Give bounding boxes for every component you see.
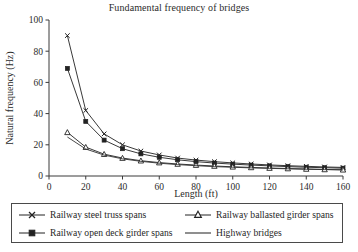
legend-label: Railway ballasted girder spans bbox=[216, 210, 334, 220]
chart-page: Fundamental frequency of bridges 0204060… bbox=[0, 0, 358, 252]
x-tick-label: 20 bbox=[81, 182, 91, 192]
x-tick-label: 140 bbox=[299, 182, 314, 192]
x-tick-label: 40 bbox=[118, 182, 128, 192]
y-tick-label: 0 bbox=[38, 171, 43, 181]
legend-entry-railway-ballasted-girder-spans[interactable]: Railway ballasted girder spans bbox=[184, 206, 334, 224]
series-group bbox=[65, 33, 346, 172]
axes-group bbox=[49, 20, 343, 176]
legend-row-2-right: Highway bridges bbox=[184, 224, 282, 242]
y-tick-label: 40 bbox=[34, 109, 44, 119]
legend-label: Railway steel truss spans bbox=[50, 210, 146, 220]
series-line bbox=[67, 132, 343, 169]
legend-entry-railway-steel-truss-spans[interactable]: Railway steel truss spans bbox=[18, 206, 146, 224]
square-marker bbox=[84, 119, 88, 123]
square-marker bbox=[102, 138, 106, 142]
y-axis-title: Natural frequency (Hz) bbox=[4, 51, 16, 144]
square-marker bbox=[157, 155, 161, 159]
legend-entry-highway-bridges[interactable]: Highway bridges bbox=[184, 224, 282, 242]
x-tick-label: 120 bbox=[262, 182, 277, 192]
legend-row-1: Railway steel truss spans bbox=[18, 206, 146, 224]
square-marker-icon bbox=[18, 227, 46, 239]
x-marker-icon bbox=[18, 209, 46, 221]
legend-row-1-right: Railway ballasted girder spans bbox=[184, 206, 334, 224]
y-ticks-group: 020406080100 bbox=[29, 15, 49, 181]
x-tick-label: 0 bbox=[47, 182, 52, 192]
chart-legend: Railway steel truss spans Railway ballas… bbox=[11, 203, 343, 243]
series-line bbox=[67, 68, 343, 168]
y-tick-label: 20 bbox=[34, 140, 44, 150]
series-line bbox=[67, 36, 343, 168]
x-tick-label: 160 bbox=[336, 182, 351, 192]
plain-line-icon bbox=[184, 227, 212, 239]
x-axis-title: Length (ft) bbox=[174, 188, 218, 200]
legend-label: Highway bridges bbox=[216, 228, 282, 238]
y-tick-label: 80 bbox=[34, 47, 44, 57]
y-tick-label: 60 bbox=[34, 78, 44, 88]
square-marker bbox=[65, 66, 69, 70]
legend-entry-railway-open-deck-girder-spans[interactable]: Railway open deck girder spans bbox=[18, 224, 173, 242]
triangle-marker bbox=[65, 130, 70, 135]
series-0 bbox=[65, 33, 345, 169]
x-tick-label: 100 bbox=[226, 182, 241, 192]
legend-row-2: Railway open deck girder spans bbox=[18, 224, 173, 242]
y-tick-label: 100 bbox=[29, 15, 44, 25]
plot-area: 020406080100 020406080100120140160 Lengt… bbox=[0, 0, 358, 200]
square-marker bbox=[139, 152, 143, 156]
square-marker bbox=[121, 147, 125, 151]
legend-label: Railway open deck girder spans bbox=[50, 228, 173, 238]
triangle-marker-icon bbox=[184, 209, 212, 221]
x-tick-label: 60 bbox=[155, 182, 165, 192]
